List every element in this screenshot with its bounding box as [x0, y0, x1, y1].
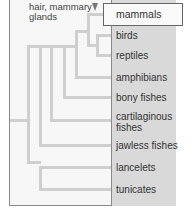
taxon-cartilaginous-line1: cartilaginous	[116, 111, 172, 122]
taxon-bony-fishes: bony fishes	[116, 92, 167, 103]
trait-line-2: glands	[29, 12, 92, 22]
branch-vertebrate-vertical	[39, 45, 42, 146]
taxon-cartilaginous-fishes: cartilaginous fishes	[116, 111, 172, 133]
branch-amphibians	[75, 76, 111, 79]
branch-tetrapod-stem	[63, 45, 78, 48]
taxon-amphibians: amphibians	[116, 72, 167, 83]
branch-urochordate-stem	[27, 161, 41, 164]
trait-marker-triangle-icon	[92, 3, 98, 11]
branch-tunicates	[39, 188, 111, 191]
branch-birds	[96, 34, 111, 37]
taxon-tunicates: tunicates	[116, 184, 156, 195]
taxon-mammals-highlight: mammals	[103, 3, 183, 26]
branch-jawless	[39, 144, 111, 147]
branch-lancelets	[39, 166, 111, 169]
branch-urochordate-vertical	[39, 166, 42, 190]
branch-reptiles	[96, 54, 111, 57]
taxon-cartilaginous-line2: fishes	[116, 122, 172, 133]
branch-root-vertical	[27, 45, 30, 163]
branch-bony-fishes	[63, 96, 111, 99]
branch-osteichthyes-vertical	[63, 45, 66, 99]
taxon-birds: birds	[116, 30, 138, 41]
branch-gnathostome-vertical	[50, 45, 53, 121]
taxon-jawless-fishes: jawless fishes	[116, 140, 178, 151]
taxon-reptiles: reptiles	[116, 50, 148, 61]
branch-tetrapod-vertical	[75, 30, 78, 78]
branch-cartilaginous	[50, 119, 111, 122]
trait-annotation: hair, mammary glands	[29, 2, 92, 22]
taxon-lancelets: lancelets	[116, 162, 155, 173]
